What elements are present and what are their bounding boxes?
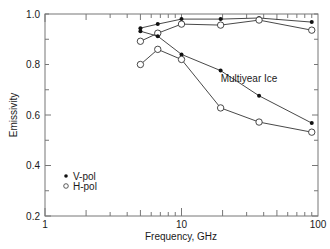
open-circle-marker-icon [178,56,184,62]
filled-dot-marker-icon [219,69,223,73]
open-circle-marker-icon [309,27,315,33]
open-circle-marker-icon [155,46,161,52]
x-tick-label: 100 [310,219,327,230]
series-h-pol-lower [137,46,315,135]
open-circle-marker-icon [178,21,184,27]
tick-labels: 0.20.40.60.81.0110100 [26,9,327,231]
filled-dot-marker-icon [138,29,142,33]
open-circle-marker-icon [256,119,262,125]
annotation-label: Multiyear Ice [221,73,278,84]
open-circle-marker-icon [217,105,223,111]
filled-dot-marker-icon [156,22,160,26]
series-v-pol-upper [138,16,313,30]
legend-hpol-label: H-pol [73,181,97,192]
y-tick-label: 0.8 [26,59,40,70]
x-tick-label: 10 [176,219,188,230]
x-axis-title: Frequency, GHz [145,231,217,242]
y-tick-label: 0.4 [26,160,40,171]
series-line [140,20,311,41]
legend: V-pol H-pol [64,171,97,192]
open-circle-marker-icon [137,61,143,67]
open-circle-marker-icon [217,22,223,28]
filled-dot-marker-icon [310,20,314,24]
filled-dot-marker-icon [219,17,223,21]
emissivity-chart: 0.20.40.60.81.0110100 Multiyear Ice Freq… [0,0,330,249]
legend-hpol-marker-icon [64,184,69,189]
y-tick-label: 0.2 [26,211,40,222]
x-tick-label: 1 [42,219,48,230]
filled-dot-marker-icon [257,94,261,98]
open-circle-marker-icon [256,17,262,23]
series-line [140,49,311,132]
open-circle-marker-icon [309,129,315,135]
filled-dot-marker-icon [156,34,160,38]
filled-dot-marker-icon [310,121,314,125]
legend-vpol-marker-icon [64,174,68,178]
series-line [140,18,311,28]
y-axis-title: Emissivity [8,93,19,137]
y-tick-label: 1.0 [26,9,40,20]
y-tick-label: 0.6 [26,110,40,121]
open-circle-marker-icon [137,38,143,44]
filled-dot-marker-icon [180,17,184,21]
